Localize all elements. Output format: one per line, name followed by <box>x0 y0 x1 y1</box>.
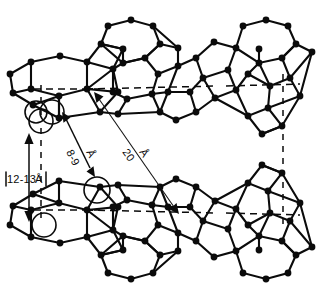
dashed-line-upper-mid <box>86 86 218 89</box>
dashed-line-upper-right <box>226 84 300 86</box>
dim-vertical-arrowhead-up <box>24 133 33 144</box>
dim-8-9A-label: 8-9 <box>64 147 82 167</box>
figure-canvas: 12-13 Å 8-9 Å 20 Å <box>0 0 325 299</box>
dim-8-9A-unit: Å <box>84 147 98 160</box>
lower-sheet-nodes <box>7 162 316 283</box>
framework-diagram-svg: 12-13 Å 8-9 Å 20 Å <box>0 0 325 299</box>
lower-sheet <box>7 162 316 283</box>
cation-site-circle-lower-mid <box>84 177 110 203</box>
dashed-line-lower-mid <box>86 210 218 213</box>
dim-20A-label: 20 <box>120 146 137 163</box>
dim-20A-arrowhead-up <box>94 92 104 103</box>
lower-left-wing-bonds <box>10 181 123 255</box>
dimension-8-9A: 8-9 Å <box>62 112 99 177</box>
cation-site-circle-lower-left <box>32 213 56 237</box>
dim-12-13A-label: 12-13 <box>7 173 36 185</box>
dim-12-13A-unit: Å <box>35 173 43 185</box>
dim-8-9A-arrowhead-down <box>87 166 96 177</box>
dashed-line-lower-right <box>226 213 300 215</box>
